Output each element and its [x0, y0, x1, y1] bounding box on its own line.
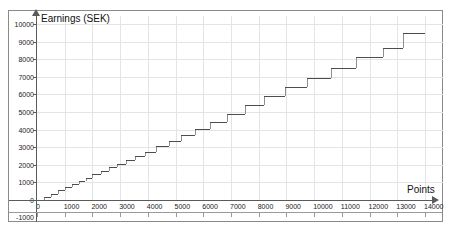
gridline-vertical	[148, 16, 149, 200]
x-tick-mark	[370, 213, 371, 217]
step-riser	[210, 122, 211, 129]
step-riser	[383, 48, 384, 58]
x-tick-mark	[397, 213, 398, 217]
x-tick-mark	[120, 213, 121, 217]
x-tick-label: 13000	[396, 203, 415, 210]
step-segment	[72, 184, 79, 185]
step-segment	[86, 178, 93, 179]
gridline-horizontal	[37, 94, 443, 95]
y-tick-label: 9000	[18, 38, 34, 45]
step-segment	[126, 160, 136, 161]
step-segment	[145, 152, 156, 153]
step-segment	[383, 48, 402, 49]
x-tick-label: 7000	[230, 203, 246, 210]
x-tick-label: 6000	[202, 203, 218, 210]
x-tick-mark	[37, 213, 38, 217]
x-label-row-separator	[9, 212, 442, 213]
step-segment	[109, 167, 117, 168]
step-riser	[285, 87, 286, 96]
gridline-vertical	[92, 16, 93, 200]
gridline-horizontal	[37, 24, 443, 25]
x-tick-mark	[92, 213, 93, 217]
step-segment	[117, 164, 125, 165]
step-segment	[285, 87, 307, 88]
step-segment	[195, 129, 210, 130]
x-tick-label: 9000	[285, 203, 301, 210]
step-riser	[356, 57, 357, 68]
x-tick-label: 2000	[91, 203, 107, 210]
gridline-vertical	[314, 16, 315, 200]
gridline-horizontal	[37, 77, 443, 78]
gridline-horizontal	[37, 59, 443, 60]
gridline-horizontal	[37, 42, 443, 43]
step-segment	[101, 171, 109, 172]
step-riser	[403, 33, 404, 48]
gridline-vertical	[370, 16, 371, 200]
step-segment	[356, 57, 384, 58]
x-tick-mark	[259, 213, 260, 217]
gridline-vertical	[259, 16, 260, 200]
x-axis-line	[9, 200, 434, 201]
step-segment	[92, 174, 100, 175]
y-tick-label: 4000	[18, 126, 34, 133]
x-tick-label: 14000	[424, 203, 443, 210]
step-segment	[227, 114, 245, 115]
step-segment	[65, 187, 72, 188]
step-segment	[264, 96, 285, 97]
y-axis-title: Earnings (SEK)	[41, 13, 110, 24]
x-tick-mark	[342, 213, 343, 217]
y-axis-tick-labels: -100001000200030004000500060007000800090…	[0, 0, 34, 231]
x-tick-label: 3000	[119, 203, 135, 210]
step-riser	[307, 78, 308, 88]
step-segment	[135, 156, 145, 157]
step-segment	[403, 33, 425, 34]
x-tick-mark	[286, 213, 287, 217]
earnings-chart-figure: -100001000200030004000500060007000800090…	[0, 0, 453, 231]
step-segment	[331, 68, 356, 69]
gridline-vertical	[286, 16, 287, 200]
x-tick-label: 11000	[341, 203, 360, 210]
x-tick-label: 1000	[64, 203, 80, 210]
gridline-vertical	[342, 16, 343, 200]
step-segment	[51, 194, 58, 195]
x-tick-mark	[314, 213, 315, 217]
x-tick-mark	[176, 213, 177, 217]
y-tick-label: 3000	[18, 144, 34, 151]
y-tick-label: 10000	[15, 21, 34, 28]
x-tick-mark	[203, 213, 204, 217]
x-axis-title: Points	[407, 184, 435, 195]
x-tick-mark	[425, 213, 426, 217]
gridline-vertical	[120, 16, 121, 200]
y-axis-line	[36, 14, 37, 222]
step-riser	[264, 96, 265, 105]
gridline-horizontal	[37, 147, 443, 148]
gridline-vertical	[231, 16, 232, 200]
y-tick-label: 2000	[18, 161, 34, 168]
gridline-vertical	[397, 16, 398, 200]
y-tick-label: 6000	[18, 91, 34, 98]
x-axis-arrow-icon	[432, 196, 439, 204]
x-tick-mark	[148, 213, 149, 217]
y-tick-label: 5000	[18, 109, 34, 116]
step-riser	[331, 68, 332, 78]
y-axis-arrow-icon	[32, 9, 40, 16]
gridline-vertical	[176, 16, 177, 200]
gridline-horizontal	[37, 130, 443, 131]
x-tick-label: 8000	[258, 203, 274, 210]
step-segment	[181, 135, 195, 136]
x-tick-mark	[231, 213, 232, 217]
y-tick-label: -1000	[16, 214, 34, 221]
step-riser	[245, 105, 246, 114]
step-segment	[307, 78, 331, 79]
step-segment	[58, 190, 65, 191]
plot-area	[37, 16, 443, 200]
x-tick-label: 10000	[313, 203, 332, 210]
step-segment	[169, 141, 181, 142]
gridline-horizontal	[37, 165, 443, 166]
gridline-vertical	[425, 16, 426, 200]
y-tick-label: 7000	[18, 73, 34, 80]
x-tick-label: 4000	[147, 203, 163, 210]
step-segment	[210, 122, 227, 123]
x-tick-mark	[65, 213, 66, 217]
x-tick-label: 12000	[369, 203, 388, 210]
